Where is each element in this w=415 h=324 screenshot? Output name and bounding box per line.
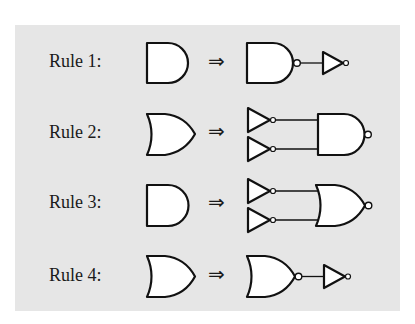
rule-3-and-gate-icon (147, 185, 189, 226)
rule-1-nand-gate-icon (247, 43, 300, 83)
rule-3-nor-gate-icon (316, 185, 372, 226)
rule-2-not-gate-top-icon (248, 108, 276, 132)
rule-3-not-gate-bottom-icon (248, 208, 276, 232)
rule-1-and-gate-icon (147, 43, 188, 83)
gate-diagram (0, 0, 415, 324)
rule-4-nor-gate-icon (247, 256, 302, 297)
rule-3-not-gate-top-icon (248, 179, 276, 203)
rule-4-not-gate-icon (324, 265, 351, 288)
rule-1-not-gate-icon (323, 52, 349, 74)
rule-2-or-gate-icon (147, 114, 195, 155)
rule-2-nand-gate-icon (318, 114, 371, 155)
rule-4-or-gate-icon (147, 256, 195, 297)
rule-2-not-gate-bottom-icon (248, 137, 276, 161)
